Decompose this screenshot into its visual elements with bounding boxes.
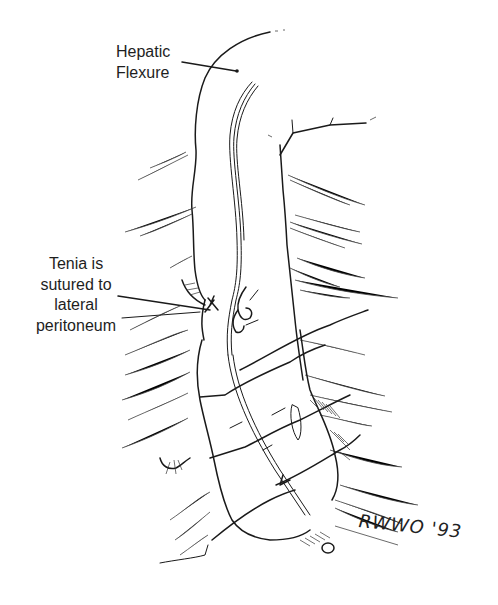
- tenia-pointer: [118, 296, 210, 310]
- suture-knot: [322, 543, 334, 553]
- tenia-label: Tenia is sutured to lateral peritoneum: [30, 254, 122, 336]
- hepatic-flexure-label-line1: Hepatic: [116, 42, 170, 63]
- tenia-label-line3: lateral: [30, 295, 122, 316]
- right-peritoneum-lines: [288, 175, 418, 532]
- left-peritoneum-lines: [122, 152, 210, 555]
- tenia-label-line4: peritoneum: [30, 316, 122, 337]
- hepatic-flexure-label-line2: Flexure: [116, 63, 170, 84]
- tenia-label-line1: Tenia is: [30, 254, 122, 275]
- tenia-label-line2: sutured to: [30, 275, 122, 296]
- suture-site: [182, 280, 258, 340]
- hepatic-flexure-label: Hepatic Flexure: [116, 42, 170, 83]
- illustration-canvas: Hepatic Flexure Tenia is sutured to late…: [0, 0, 498, 605]
